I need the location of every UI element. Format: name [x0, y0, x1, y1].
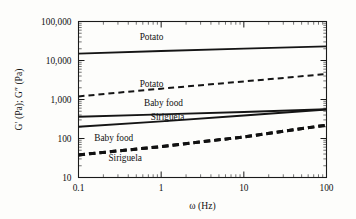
y-tick-label: 10,000: [46, 56, 72, 66]
x-tick-label: 1: [159, 183, 164, 193]
annotation-siriguela-loss: Siriguela: [108, 153, 142, 163]
x-tick-label: 10: [239, 183, 249, 193]
annotation-babyfood-loss: Baby food: [94, 133, 133, 143]
x-tick-label: 0.1: [73, 183, 85, 193]
y-tick-label: 100,000: [41, 17, 72, 27]
chart-figure: 0.1110100 101001,00010,000100,000 Potato…: [0, 0, 356, 219]
x-axis-title: ω (Hz): [189, 200, 215, 212]
y-tick-label: 10: [62, 173, 72, 183]
annotation-potato-storage: Potato: [140, 32, 164, 42]
annotation-babyfood-storage: Baby food: [144, 98, 183, 108]
y-tick-label: 100: [57, 134, 71, 144]
y-tick-label: 1,000: [50, 95, 71, 105]
y-axis-title: G′ (Pa); G″ (Pa): [13, 69, 25, 131]
rheology-log-log-plot: 0.1110100 101001,00010,000100,000 Potato…: [0, 0, 356, 219]
annotation-siriguela-storage: Siriguela: [151, 112, 185, 122]
annotation-potato-loss: Potato: [140, 79, 164, 89]
x-tick-label: 100: [319, 183, 333, 193]
